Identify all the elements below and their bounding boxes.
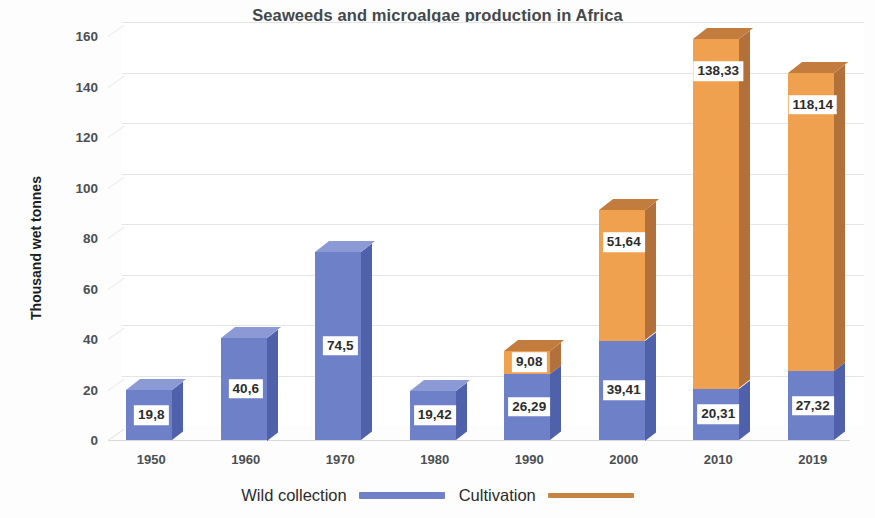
bar-face-side [267,329,278,440]
chart-page: Seaweeds and microalgae production in Af… [0,0,875,518]
x-tick-label: 2019 [798,452,827,467]
bar-face-side [834,362,845,440]
bar-segment[interactable] [599,210,645,340]
bar-data-label: 19,42 [414,406,456,426]
legend-label-wild-collection: Wild collection [241,486,346,505]
bar-data-label: 74,5 [323,336,357,356]
x-tick-label: 1950 [137,452,166,467]
y-tick-label: 40 [52,332,98,347]
bar-data-label: 40,6 [229,379,263,399]
legend-item-cultivation[interactable]: Cultivation [459,486,634,505]
x-axis-tick-labels: 19501960197019801990200020102019 [108,452,864,472]
y-tick-label: 20 [52,382,98,397]
bar-data-label: 118,14 [788,95,837,115]
x-tick-label: 1990 [515,452,544,467]
bar-face-side [361,243,372,440]
bar-face-front [599,210,645,340]
legend-swatch-blue-icon [359,492,445,499]
x-tick-label: 2010 [704,452,733,467]
bar-face-side [456,382,467,440]
x-tick-label: 1960 [231,452,260,467]
bar-column[interactable] [410,36,456,440]
bar-column[interactable] [693,36,739,440]
y-tick-label: 140 [52,79,98,94]
y-tick-label: 160 [52,29,98,44]
bar-column[interactable] [504,36,550,440]
bar-face-side [645,202,656,341]
x-tick-label: 2000 [609,452,638,467]
chart-legend: Wild collection Cultivation [0,486,875,505]
bar-column[interactable] [315,36,361,440]
y-tick-label: 120 [52,130,98,145]
x-tick-label: 1980 [420,452,449,467]
bar-face-front [693,39,739,388]
bar-data-label: 27,32 [792,396,834,416]
bar-segment[interactable] [788,73,834,371]
bar-data-label: 19,8 [134,405,168,425]
bar-face-side [739,31,750,389]
legend-swatch-orange-icon [548,493,634,498]
bar-face-side [739,380,750,440]
legend-label-cultivation: Cultivation [459,486,536,505]
bar-data-label: 9,08 [512,352,546,372]
y-tick-label: 0 [52,433,98,448]
bar-data-label: 20,31 [697,405,739,425]
bar-data-label: 138,33 [694,62,743,82]
legend-item-wild-collection[interactable]: Wild collection [241,486,444,505]
y-tick-label: 60 [52,281,98,296]
bar-face-side [550,365,561,440]
bar-column[interactable] [126,36,172,440]
y-tick-label: 80 [52,231,98,246]
bar-data-label: 39,41 [603,380,645,400]
y-axis-title: Thousand wet tonnes [28,128,44,368]
y-tick-label: 100 [52,180,98,195]
bar-face-front [788,73,834,371]
bar-face-side [645,332,656,440]
plot-area: 19,840,674,519,4226,299,0839,4151,6420,3… [108,36,864,440]
y-axis-tick-labels: 020406080100120140160 [52,36,98,440]
x-tick-label: 1970 [326,452,355,467]
gridline [122,22,864,23]
bar-data-label: 26,29 [508,397,550,417]
bar-face-side [172,381,183,440]
bar-segment[interactable] [693,39,739,388]
bar-data-label: 51,64 [603,232,645,252]
